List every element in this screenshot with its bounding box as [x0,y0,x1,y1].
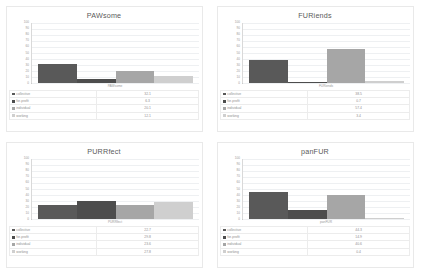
table-row[interactable]: collective38.5 [221,91,410,98]
legend-data-table: collective32.1for-profit6.3individual20.… [9,90,199,120]
y-axis-tick: 20 [26,206,29,209]
y-axis-tick: 20 [26,70,29,73]
y-axis-tick: 90 [26,163,29,166]
legend-swatch-icon [12,114,15,117]
data-value-cell: 12.1 [97,112,199,119]
bar[interactable] [116,71,155,83]
data-value-cell: 40.6 [308,241,410,248]
bar[interactable] [116,205,155,219]
plot-area: 1009080706050403020100 [220,159,410,220]
y-axis-tick: 100 [235,157,240,160]
chart-cell-0[interactable]: PAWsome1009080706050403020100PAWsomecoll… [0,0,211,136]
table-row[interactable]: for-profit29.8 [10,234,199,241]
table-row[interactable]: collective44.3 [221,227,410,234]
gridline [32,219,199,220]
bar[interactable] [154,76,193,83]
y-axis-tick: 60 [26,46,29,49]
chart-cell-2[interactable]: PURRfect1009080706050403020100PURRfectco… [0,136,211,272]
y-axis-tick: 100 [24,157,29,160]
bar[interactable] [288,210,327,219]
bar[interactable] [327,195,366,219]
chart-title: PAWsome [9,11,199,22]
table-row[interactable]: working12.1 [10,112,199,119]
chart-frame: PAWsome1009080706050403020100PAWsomecoll… [6,6,203,132]
table-row[interactable]: working0.4 [221,248,410,255]
legend-entry: working [10,248,97,255]
plot-canvas [31,159,199,220]
y-axis-tick: 10 [26,76,29,79]
legend-entry: for-profit [221,98,308,105]
y-axis-tick: 0 [238,82,240,85]
table-row[interactable]: for-profit14.9 [221,234,410,241]
legend-swatch-icon [223,100,226,103]
chart-grid: PAWsome1009080706050403020100PAWsomecoll… [0,0,422,272]
plot-canvas [31,23,199,84]
legend-entry: working [221,112,308,119]
legend-swatch-icon [223,93,226,96]
bar-series [243,23,410,83]
y-axis-tick: 70 [237,176,240,179]
bar[interactable] [38,64,77,83]
bar[interactable] [327,49,366,83]
chart-title: FURiends [220,11,410,22]
legend-swatch-icon [12,93,15,96]
legend-label: working [16,250,28,254]
bar[interactable] [38,205,77,219]
legend-label: individual [16,107,30,111]
y-axis-tick: 50 [26,188,29,191]
chart-cell-1[interactable]: FURiends1009080706050403020100FURiendsco… [211,0,422,136]
data-value-cell: 44.3 [308,227,410,234]
table-row[interactable]: for-profit6.3 [10,98,199,105]
bar[interactable] [154,202,193,219]
bar[interactable] [249,60,288,83]
gridline [243,83,410,84]
plot-area: 1009080706050403020100 [9,159,199,220]
table-row[interactable]: individual20.1 [10,105,199,112]
table-row[interactable]: individual40.6 [221,241,410,248]
y-axis-tick: 80 [237,169,240,172]
table-row[interactable]: individual23.6 [10,241,199,248]
legend-swatch-icon [12,250,15,253]
legend-label: collective [16,228,30,232]
bar[interactable] [77,201,116,219]
chart-frame: FURiends1009080706050403020100FURiendsco… [217,6,414,132]
x-axis-label: panFUR [220,220,410,225]
data-value-cell: 23.6 [97,241,199,248]
legend-entry: for-profit [221,234,308,241]
legend-swatch-icon [223,250,226,253]
legend-label: working [227,250,239,254]
legend-entry: collective [221,91,308,98]
data-value-cell: 32.1 [97,91,199,98]
chart-cell-3[interactable]: panFUR1009080706050403020100panFURcollec… [211,136,422,272]
chart-title: PURRfect [9,147,199,158]
y-axis-tick: 60 [237,182,240,185]
bar[interactable] [249,192,288,219]
y-axis-tick: 10 [237,76,240,79]
table-row[interactable]: working3.4 [221,112,410,119]
table-row[interactable]: individual57.4 [221,105,410,112]
y-axis-tick: 30 [237,200,240,203]
table-row[interactable]: working27.8 [10,248,199,255]
y-axis-tick: 70 [26,40,29,43]
y-axis-tick: 60 [237,46,240,49]
legend-entry: individual [221,241,308,248]
bar[interactable] [288,82,327,83]
legend-entry: for-profit [10,234,97,241]
bar[interactable] [77,79,116,83]
legend-swatch-icon [12,100,15,103]
plot-canvas [242,159,410,220]
legend-swatch-icon [12,107,15,110]
table-row[interactable]: for-profit0.7 [221,98,410,105]
table-row[interactable]: collective32.1 [10,91,199,98]
y-axis: 1009080706050403020100 [9,23,31,84]
legend-label: collective [227,92,241,96]
y-axis-tick: 90 [237,163,240,166]
bar[interactable] [365,81,404,83]
y-axis-tick: 40 [237,58,240,61]
y-axis-tick: 40 [237,194,240,197]
y-axis-tick: 60 [26,182,29,185]
table-row[interactable]: collective22.7 [10,227,199,234]
data-value-cell: 38.5 [308,91,410,98]
data-value-cell: 22.7 [97,227,199,234]
bar[interactable] [365,218,404,219]
